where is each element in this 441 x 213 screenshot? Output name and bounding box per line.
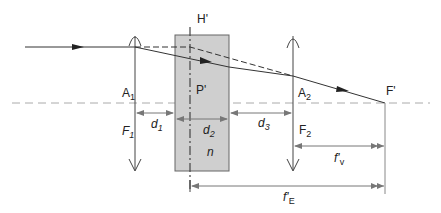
label-fv: f'v — [334, 152, 344, 167]
label-fE: f'E — [283, 191, 295, 206]
label-H-prime: H' — [197, 13, 208, 25]
label-d1: d1 — [151, 118, 163, 133]
label-F-prime: F' — [386, 85, 396, 97]
refracted-ray — [135, 47, 385, 103]
optical-diagram — [0, 0, 441, 213]
ray-arrow-icon — [336, 86, 349, 92]
ray-arrow-icon — [72, 44, 84, 50]
label-F1: F1 — [122, 125, 134, 140]
label-d3: d3 — [258, 117, 270, 132]
label-A2: A2 — [298, 87, 311, 102]
label-n: n — [207, 146, 214, 158]
label-d2: d2 — [203, 124, 215, 139]
label-A1: A1 — [122, 87, 135, 102]
glass-plate — [175, 35, 229, 171]
label-P-prime: P' — [196, 84, 206, 96]
label-F2: F2 — [299, 124, 311, 139]
